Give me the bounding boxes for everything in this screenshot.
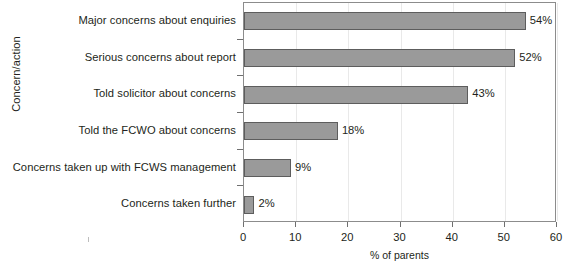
gridline	[296, 3, 297, 221]
gridline	[557, 3, 558, 221]
bar	[244, 196, 254, 214]
y-axis-tick	[237, 75, 243, 76]
bar	[244, 86, 468, 104]
bar-value-label: 9%	[295, 161, 311, 174]
y-axis-tick	[237, 39, 243, 40]
bar	[244, 49, 515, 67]
gridline	[401, 3, 402, 221]
x-axis-tick	[295, 222, 296, 227]
category-axis-labels: Major concerns about enquiriesSerious co…	[0, 2, 236, 222]
category-label: Told the FCWO about concerns	[0, 124, 236, 137]
x-axis-tick	[452, 222, 453, 227]
x-axis-tick	[504, 222, 505, 227]
bar-value-label: 2%	[258, 197, 274, 210]
x-axis-tick-label: 20	[327, 231, 367, 244]
y-axis-tick	[237, 112, 243, 113]
category-label: Major concerns about enquiries	[0, 14, 236, 27]
plot-area	[243, 2, 556, 222]
stray-mark	[88, 237, 89, 242]
gridline	[505, 3, 506, 221]
x-axis-tick-label: 0	[223, 231, 263, 244]
x-axis-tick	[400, 222, 401, 227]
bar	[244, 12, 526, 30]
bar-value-label: 43%	[472, 87, 494, 100]
bar	[244, 122, 338, 140]
bar-chart: Concern/action Major concerns about enqu…	[0, 0, 570, 270]
bar-value-label: 54%	[530, 14, 552, 27]
category-label: Concerns taken up with FCWS management	[0, 161, 236, 174]
x-axis-tick-label: 60	[536, 231, 570, 244]
x-axis-tick-label: 10	[275, 231, 315, 244]
x-axis-tick	[243, 222, 244, 227]
x-axis-tick-label: 30	[380, 231, 420, 244]
bar	[244, 159, 291, 177]
x-axis-title: % of parents	[243, 249, 556, 261]
bar-value-label: 18%	[342, 124, 364, 137]
x-axis-tick-label: 50	[484, 231, 524, 244]
gridline	[453, 3, 454, 221]
y-axis-tick	[237, 185, 243, 186]
category-label: Told solicitor about concerns	[0, 87, 236, 100]
gridline	[348, 3, 349, 221]
category-label: Concerns taken further	[0, 197, 236, 210]
x-axis-tick	[347, 222, 348, 227]
y-axis-tick	[237, 149, 243, 150]
x-axis-tick	[556, 222, 557, 227]
category-label: Serious concerns about report	[0, 51, 236, 64]
bar-value-label: 52%	[519, 51, 541, 64]
x-axis-tick-label: 40	[432, 231, 472, 244]
